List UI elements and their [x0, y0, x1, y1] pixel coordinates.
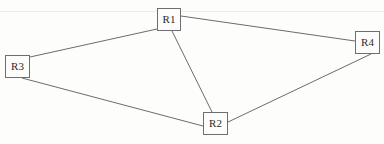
node-label-r3: R3: [11, 61, 24, 72]
edge-r3-r1: [30, 29, 157, 57]
edge-r1-r2: [172, 31, 212, 112]
node-r2[interactable]: R2: [203, 112, 228, 135]
node-r1[interactable]: R1: [157, 8, 181, 31]
node-r3[interactable]: R3: [5, 55, 30, 78]
node-label-r2: R2: [209, 118, 222, 129]
node-label-r1: R1: [162, 14, 175, 25]
edge-r2-r4: [228, 54, 371, 122]
edge-r3-r2: [22, 78, 203, 126]
node-label-r4: R4: [361, 37, 374, 48]
edge-r1-r4: [181, 16, 355, 41]
edges-layer: [0, 0, 384, 144]
diagram-canvas: R1R2R3R4: [0, 0, 384, 144]
node-r4[interactable]: R4: [355, 31, 380, 54]
